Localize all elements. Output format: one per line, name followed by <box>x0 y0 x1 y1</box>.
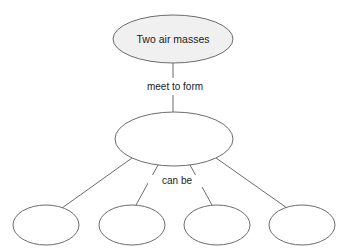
concept-map-diagram: Two air masses meet to form can be <box>0 0 348 250</box>
connector-middle-to-bottom-1 <box>62 158 132 208</box>
edge-label-meet-to-form: meet to form <box>123 81 227 93</box>
node-top-label: Two air masses <box>113 33 233 45</box>
node-middle-ellipse[interactable] <box>115 112 233 166</box>
node-bottom-ellipse-3[interactable] <box>184 205 250 245</box>
node-bottom-ellipse-4[interactable] <box>269 205 335 245</box>
node-bottom-ellipse-2[interactable] <box>99 205 165 245</box>
connector-middle-to-bottom-4 <box>216 158 287 208</box>
node-bottom-ellipse-1[interactable] <box>13 205 79 245</box>
edge-label-can-be: can be <box>148 175 206 187</box>
